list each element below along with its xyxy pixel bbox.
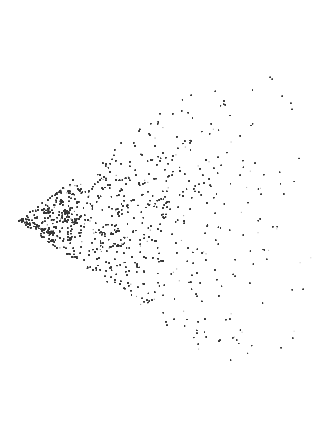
- wedge-point-cloud: [0, 0, 312, 436]
- point-cloud-canvas: [0, 0, 312, 436]
